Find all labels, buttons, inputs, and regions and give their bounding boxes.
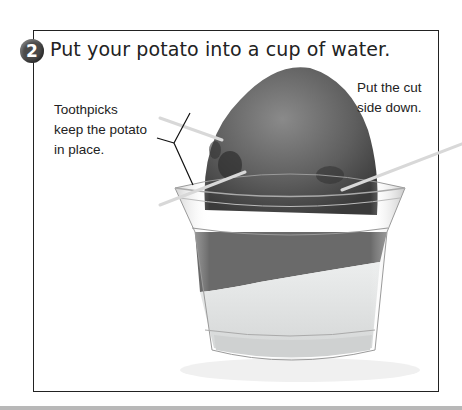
cut-side-callout: Put the cut side down. bbox=[357, 78, 422, 118]
callout-line-2: keep the potato bbox=[54, 120, 147, 140]
potato-photo bbox=[0, 0, 462, 410]
callout-line-1: Toothpicks bbox=[54, 100, 147, 120]
toothpicks-callout: Toothpicks keep the potato in place. bbox=[54, 100, 147, 160]
callout-line-3: in place. bbox=[54, 140, 147, 160]
step-number-badge: 2 bbox=[20, 39, 44, 63]
page-bottom-edge bbox=[0, 406, 462, 410]
step-title: Put your potato into a cup of water. bbox=[50, 38, 390, 60]
callout-line-1: Put the cut bbox=[357, 78, 422, 98]
callout-line-2: side down. bbox=[357, 98, 422, 118]
